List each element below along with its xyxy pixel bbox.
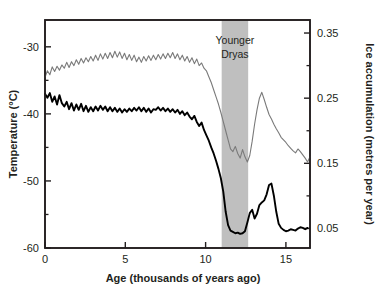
right-tick-label: 0.35 xyxy=(317,27,338,39)
left-tick-label: -50 xyxy=(23,175,39,187)
bottom-tick-label: 0 xyxy=(42,253,48,265)
younger-dryas-label-line1: Younger xyxy=(216,34,255,46)
data-series-group xyxy=(45,51,310,234)
right-axis-tick-labels: 0.350.250.150.05 xyxy=(317,27,338,234)
bottom-tick-label: 10 xyxy=(199,253,211,265)
right-axis-ticks xyxy=(304,33,310,228)
x-axis-title: Age (thousands of years ago) xyxy=(106,272,261,284)
right-tick-label: 0.15 xyxy=(317,157,338,169)
bottom-axis-ticks xyxy=(45,242,286,248)
left-tick-label: -40 xyxy=(23,108,39,120)
series-line-temperature xyxy=(45,93,308,234)
y2-axis-title: Ice accumulation (metres per year) xyxy=(364,43,376,225)
y-axis-title: Temperature (°C) xyxy=(7,89,19,178)
right-tick-label: 0.05 xyxy=(317,222,338,234)
younger-dryas-label-line2: Dryas xyxy=(221,48,248,60)
right-tick-label: 0.25 xyxy=(317,92,338,104)
bottom-tick-label: 15 xyxy=(280,253,292,265)
left-tick-label: -60 xyxy=(23,242,39,254)
bottom-tick-label: 5 xyxy=(122,253,128,265)
left-tick-label: -30 xyxy=(23,41,39,53)
chart-figure: -30-40-50-60 0.350.250.150.05 051015 You… xyxy=(0,0,377,289)
left-axis-ticks xyxy=(45,47,51,248)
ice-core-temperature-chart: -30-40-50-60 0.350.250.150.05 051015 You… xyxy=(0,0,377,289)
left-axis-tick-labels: -30-40-50-60 xyxy=(23,41,39,254)
bottom-axis-tick-labels: 051015 xyxy=(42,253,292,265)
